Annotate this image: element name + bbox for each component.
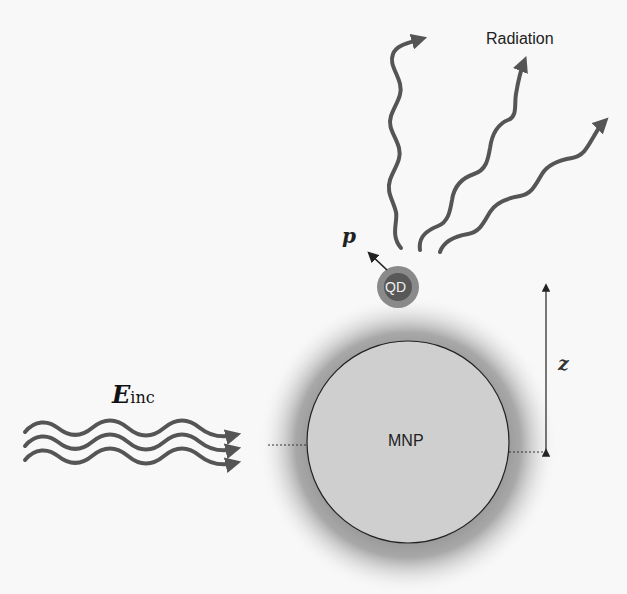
qd-label: QD	[385, 279, 406, 295]
diagram-graphics	[0, 0, 627, 594]
radiation-wave-3	[440, 122, 604, 252]
mnp-label: MNP	[388, 432, 424, 450]
radiation-label: Radiation	[486, 30, 554, 48]
dipole-label: p	[342, 224, 356, 248]
incident-field-label: Einc	[112, 380, 155, 409]
diagram-canvas: Radiation p QD z Einc MNP	[0, 0, 627, 594]
dipole-arrow	[369, 253, 387, 270]
radiation-wave-2	[420, 62, 524, 250]
incident-wave-1	[25, 421, 235, 437]
incident-wave-2	[25, 435, 235, 451]
radiation-wave-1	[389, 39, 421, 248]
incident-wave-3	[25, 449, 235, 465]
incident-field-subscript: inc	[130, 388, 154, 407]
z-distance-label: z	[558, 352, 569, 374]
incident-field-symbol: E	[112, 380, 130, 409]
